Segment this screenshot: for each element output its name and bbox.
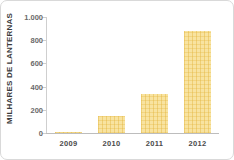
x-axis-line [46,133,219,134]
y-axis-title-text: MILHARES DE LANTERNAS [5,13,14,124]
x-axis-label: 2009 [47,139,90,148]
x-axis-label: 2012 [176,139,219,148]
bar [141,94,168,133]
bar [55,132,82,134]
y-tick-label: 400 [30,82,43,91]
y-tick-label: 800 [30,36,43,45]
y-tick: 0 [46,133,47,134]
y-axis-title: MILHARES DE LANTERNAS [1,1,17,136]
bar [98,116,125,133]
bars-layer [47,17,219,133]
y-tick-label: 1.000 [24,13,43,22]
y-tick-label: 600 [30,59,43,68]
x-axis-label: 2011 [133,139,176,148]
y-tick-label: 0 [39,129,43,138]
plot-area: 02004006008001.000 [46,13,224,137]
chart-card: MILHARES DE LANTERNAS 02004006008001.000… [0,0,234,160]
x-axis-label: 2010 [90,139,133,148]
x-axis-labels: 2009201020112012 [46,139,224,153]
bar [184,31,211,133]
y-tick-label: 200 [30,105,43,114]
